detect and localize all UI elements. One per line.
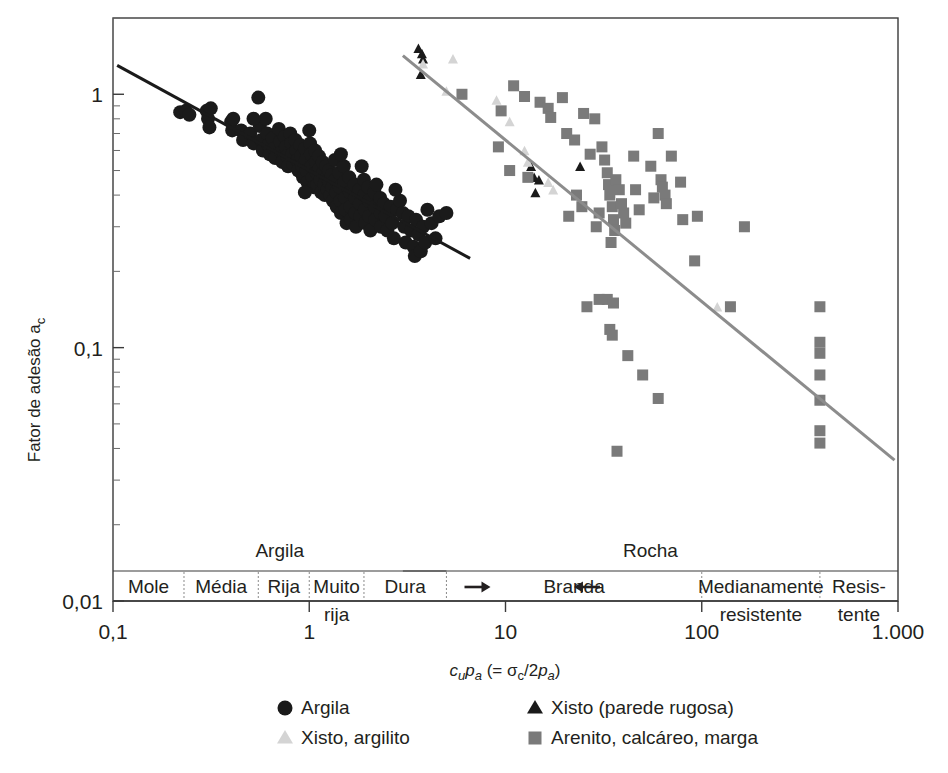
point-square <box>628 151 639 162</box>
point-square <box>692 211 703 222</box>
legend-label: Arenito, calcáreo, marga <box>551 727 758 748</box>
band-cell-label: Mole <box>128 576 169 597</box>
point-square <box>519 91 530 102</box>
point-square <box>504 165 515 176</box>
point-square <box>545 112 556 123</box>
point-square <box>666 151 677 162</box>
y-tick-label: 1 <box>91 83 103 106</box>
band-cell-label: Resis- <box>832 576 886 597</box>
x-tick-label: 100 <box>684 620 719 643</box>
point-circle <box>259 112 273 126</box>
x-axis-title: cupa (= σc/2pa) <box>449 661 560 683</box>
point-square <box>630 184 641 195</box>
band-cell-label: Média <box>195 576 247 597</box>
point-square <box>653 128 664 139</box>
chart-canvas: 0,11101001.000 10,10,01 ArgilaRochaMoleM… <box>0 0 948 773</box>
point-square <box>614 184 625 195</box>
point-square <box>493 141 504 152</box>
point-circle <box>388 183 402 197</box>
band-cell-label-2: tente <box>838 604 880 625</box>
point-circle <box>202 120 216 134</box>
point-square <box>814 301 825 312</box>
point-square <box>599 155 610 166</box>
point-square <box>612 446 623 457</box>
band-cell-label: Muito <box>313 576 359 597</box>
point-circle <box>182 108 196 122</box>
y-axis-title: Fator de adesão ac <box>25 317 48 462</box>
point-square <box>675 177 686 188</box>
legend-triangle-icon <box>527 700 543 714</box>
point-square <box>508 80 519 91</box>
x-tick-label: 1 <box>303 620 315 643</box>
point-square <box>569 134 580 145</box>
point-square <box>814 348 825 359</box>
point-square <box>596 141 607 152</box>
chart-legend: ArgilaXisto (parede rugosa)Xisto, argili… <box>277 697 758 748</box>
band-group-label: Rocha <box>623 540 678 561</box>
point-square <box>557 92 568 103</box>
y-tick-label: 0,1 <box>74 337 103 360</box>
legend-entry-sandstone: Arenito, calcáreo, marga <box>529 727 759 748</box>
point-circle <box>355 159 369 173</box>
legend-entry-shale_ms: Xisto, argilito <box>277 727 410 748</box>
figure-root: 0,11101001.000 10,10,01 ArgilaRochaMoleM… <box>0 0 948 773</box>
point-square <box>739 221 750 232</box>
point-square <box>581 301 592 312</box>
band-cell-label-2: rija <box>324 604 350 625</box>
point-square <box>677 214 688 225</box>
legend-label: Xisto, argilito <box>301 727 410 748</box>
point-square <box>634 204 645 215</box>
band-group-label: Argila <box>255 540 304 561</box>
point-square <box>608 298 619 309</box>
point-circle <box>302 123 316 137</box>
point-square <box>606 237 617 248</box>
band-cell-label: Rija <box>267 576 300 597</box>
legend-label: Xisto (parede rugosa) <box>551 697 734 718</box>
x-tick-label: 10 <box>494 620 517 643</box>
point-square <box>637 369 648 380</box>
point-square <box>814 337 825 348</box>
legend-square-icon <box>529 732 542 745</box>
point-circle <box>439 206 453 220</box>
point-square <box>607 330 618 341</box>
svg-text:Fator de adesão ac: Fator de adesão ac <box>25 317 48 462</box>
point-circle <box>298 185 312 199</box>
legend-triangle-icon <box>277 730 293 744</box>
point-circle <box>420 203 434 217</box>
point-square <box>661 198 672 209</box>
point-square <box>496 105 507 116</box>
point-circle <box>226 112 240 126</box>
point-square <box>618 207 629 218</box>
point-square <box>610 174 621 185</box>
x-tick-label: 0,1 <box>98 620 127 643</box>
point-circle <box>334 147 348 161</box>
legend-entry-clay: Argila <box>278 697 351 718</box>
point-square <box>814 369 825 380</box>
point-square <box>563 211 574 222</box>
band-cell-label: Medianamente <box>698 576 824 597</box>
point-square <box>591 221 602 232</box>
point-square <box>622 350 633 361</box>
point-square <box>814 425 825 436</box>
point-square <box>578 108 589 119</box>
point-circle <box>369 178 383 192</box>
legend-entry-shale_r: Xisto (parede rugosa) <box>527 697 734 718</box>
point-square <box>604 190 615 201</box>
point-square <box>589 113 600 124</box>
point-square <box>456 89 467 100</box>
point-square <box>725 301 736 312</box>
y-tick-label: 0,01 <box>62 590 103 613</box>
point-square <box>522 172 533 183</box>
band-cell-label: Dura <box>385 576 427 597</box>
band-cell-label-2: resistente <box>720 604 802 625</box>
point-square <box>814 438 825 449</box>
point-circle <box>251 91 265 105</box>
point-square <box>608 214 619 225</box>
point-square <box>653 393 664 404</box>
legend-label: Argila <box>301 697 350 718</box>
svg-text:cupa (= σc/2pa): cupa (= σc/2pa) <box>449 661 560 683</box>
point-square <box>645 161 656 172</box>
point-square <box>585 149 596 160</box>
point-square <box>620 218 631 229</box>
legend-circle-icon <box>278 701 293 716</box>
